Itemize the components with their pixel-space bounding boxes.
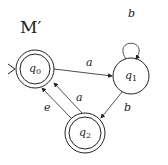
svg-text:q1: q1 [125, 69, 137, 83]
transition-q1-q1 [123, 43, 139, 59]
transition-label-a: a [86, 56, 93, 69]
svg-text:q0: q0 [29, 62, 41, 76]
transition-q0-q1 [54, 69, 112, 76]
transition-label-e: e [44, 101, 51, 114]
diagram-title: M′ [20, 17, 41, 37]
state-q2: q2 [65, 113, 105, 153]
transition-label-b-loop: b [128, 7, 135, 20]
state-q1: q1 [113, 58, 149, 94]
state-q0: q0 [16, 50, 54, 88]
transition-label-b: b [124, 101, 131, 114]
svg-text:q2: q2 [79, 126, 91, 140]
transition-q1-q2 [101, 92, 122, 118]
transition-label-a-back: a [76, 91, 83, 104]
automaton-diagram: M′ q0 q1 q2 a b b a e [0, 0, 168, 165]
start-arrow-icon [8, 64, 15, 74]
